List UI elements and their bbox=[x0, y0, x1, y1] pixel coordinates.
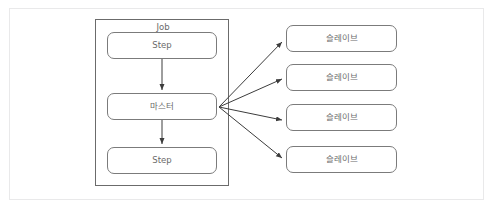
node-slave-4-label: 슬레이브 bbox=[326, 155, 358, 164]
job-label: Job bbox=[96, 22, 230, 32]
node-step-bottom-label: Step bbox=[152, 156, 171, 165]
node-slave-3[interactable]: 슬레이브 bbox=[286, 104, 397, 131]
node-master-label: 마스터 bbox=[150, 102, 174, 111]
node-slave-4[interactable]: 슬레이브 bbox=[286, 146, 397, 173]
node-slave-2[interactable]: 슬레이브 bbox=[286, 64, 397, 91]
node-step-bottom[interactable]: Step bbox=[107, 147, 217, 174]
node-slave-1-label: 슬레이브 bbox=[326, 34, 358, 43]
node-step-top[interactable]: Step bbox=[107, 32, 217, 59]
diagram-canvas: Job Step 마스터 Step 슬레이브 슬레이브 슬레이브 슬레이브 bbox=[0, 0, 494, 212]
node-master[interactable]: 마스터 bbox=[107, 93, 217, 120]
node-slave-2-label: 슬레이브 bbox=[326, 73, 358, 82]
node-slave-1[interactable]: 슬레이브 bbox=[286, 25, 397, 52]
cut-off-header-text bbox=[0, 0, 494, 7]
node-step-top-label: Step bbox=[152, 41, 171, 50]
diagram-outer-frame bbox=[9, 8, 484, 200]
node-slave-3-label: 슬레이브 bbox=[326, 113, 358, 122]
